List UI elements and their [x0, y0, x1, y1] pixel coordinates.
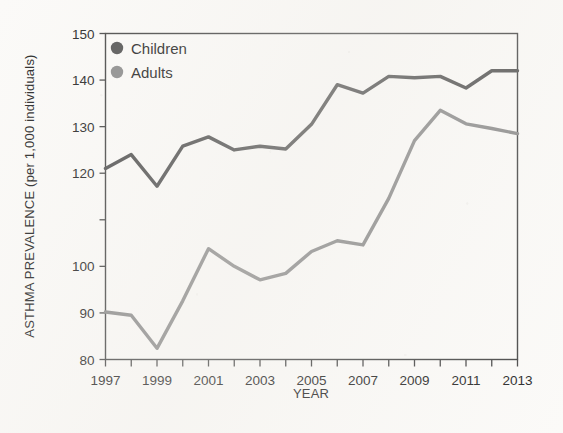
x-tick-label: 1999 [142, 373, 172, 388]
y-tick-label: 90 [79, 306, 94, 321]
y-tick-label: 100 [72, 259, 95, 274]
y-axis-title: ASTHMA PREVALENCE (per 1,000 individuals… [22, 54, 37, 337]
y-tick-label: 140 [72, 73, 95, 88]
legend-marker-adults [111, 66, 123, 78]
legend-label-adults: Adults [131, 64, 173, 81]
y-tick-label: 130 [72, 120, 95, 135]
chart-legend: ChildrenAdults [111, 40, 187, 81]
x-tick-label: 2009 [399, 373, 429, 388]
x-axis-ticks [106, 360, 518, 367]
y-tick-label: 80 [79, 353, 94, 368]
x-tick-label: 1997 [90, 373, 120, 388]
y-tick-label: 150 [72, 27, 95, 42]
x-tick-label: 2007 [348, 373, 378, 388]
x-axis-title: YEAR [293, 386, 329, 401]
x-tick-label: 2001 [193, 373, 223, 388]
legend-marker-children [111, 42, 123, 54]
y-axis-tick-labels: 8090100120130140150 [72, 27, 95, 368]
x-tick-label: 2011 [451, 373, 480, 388]
series-line-children [106, 71, 518, 186]
x-tick-label: 2003 [245, 373, 275, 388]
y-tick-label: 120 [72, 166, 95, 181]
chart-canvas: 8090100120130140150 19971999200120032005… [0, 0, 563, 433]
data-series-layer [106, 71, 518, 349]
x-tick-label: 2013 [502, 373, 532, 388]
asthma-prevalence-chart: 8090100120130140150 19971999200120032005… [0, 0, 563, 433]
legend-label-children: Children [131, 40, 187, 57]
series-line-adults [106, 110, 518, 348]
